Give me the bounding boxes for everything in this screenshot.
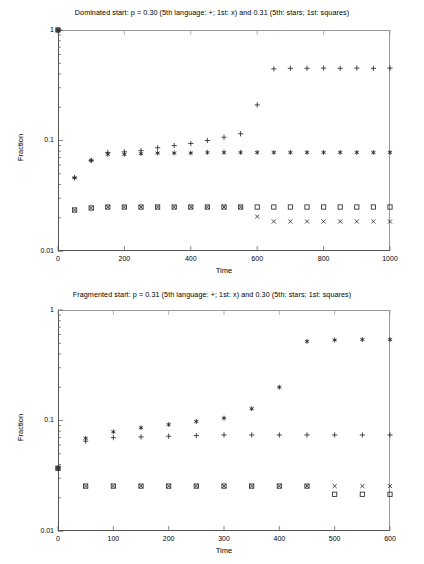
data-point (155, 151, 159, 156)
y-axis-ticks (58, 310, 63, 531)
data-point (332, 432, 337, 437)
series-2 (56, 337, 392, 471)
data-point (172, 143, 177, 148)
data-point (205, 138, 210, 143)
y-tick-label: 0.1 (16, 416, 54, 423)
data-point (194, 484, 198, 488)
data-point (194, 433, 199, 438)
data-point (305, 205, 309, 209)
data-point (167, 422, 171, 427)
data-point (89, 206, 93, 210)
x-tick-label: 200 (104, 255, 144, 262)
data-point (139, 425, 143, 430)
data-point (338, 66, 343, 71)
x-tick-label: 400 (259, 535, 299, 542)
chart-panel-fragmented-start: Fragmented start: p = 0.31 (5th language… (0, 282, 424, 564)
series-0 (55, 27, 392, 180)
x-tick-label: 600 (370, 535, 410, 542)
data-point (239, 205, 243, 209)
data-point (255, 205, 259, 209)
x-tick-label: 200 (149, 535, 189, 542)
data-point (360, 484, 364, 488)
x-axis-label-dominated-start: Time (184, 266, 264, 275)
data-point (277, 484, 281, 488)
x-axis-label-fragmented-start: Time (184, 546, 264, 555)
data-point (222, 416, 226, 421)
data-point (360, 337, 364, 342)
data-point (305, 339, 309, 344)
x-tick-label: 0 (38, 255, 78, 262)
data-point (360, 492, 364, 496)
series-1 (56, 466, 392, 488)
data-point (355, 150, 359, 155)
data-point (305, 219, 309, 223)
data-point (238, 150, 242, 155)
data-point (338, 219, 342, 223)
data-point (388, 492, 392, 496)
data-point (321, 150, 325, 155)
x-tick-label: 0 (38, 535, 78, 542)
data-point (205, 150, 209, 155)
data-point (321, 66, 326, 71)
data-point (166, 434, 171, 439)
data-point (272, 219, 276, 223)
data-point (388, 337, 392, 342)
y-tick-label: 0.1 (16, 136, 54, 143)
data-point (288, 219, 292, 223)
data-point (84, 484, 88, 488)
x-tick-label: 600 (237, 255, 277, 262)
data-point (388, 150, 392, 155)
data-point (73, 208, 77, 212)
data-point (272, 150, 276, 155)
data-point (371, 150, 375, 155)
data-point (139, 151, 143, 156)
data-point (188, 141, 193, 146)
data-point (122, 152, 126, 157)
data-point (255, 102, 260, 107)
series-3 (56, 466, 392, 496)
data-point (333, 492, 337, 496)
data-point (355, 205, 359, 209)
data-point (333, 338, 337, 343)
data-point (138, 434, 143, 439)
x-axis-ticks (58, 30, 390, 251)
x-tick-label: 300 (204, 535, 244, 542)
data-point (238, 131, 243, 136)
data-point (84, 436, 88, 441)
data-point (111, 484, 115, 488)
data-point (222, 150, 226, 155)
series-0 (55, 432, 392, 470)
data-point (338, 150, 342, 155)
data-point (167, 484, 171, 488)
data-point (155, 145, 160, 150)
data-point (288, 205, 292, 209)
data-point (333, 484, 337, 488)
data-point (122, 205, 126, 209)
data-point (255, 150, 259, 155)
data-point (194, 419, 198, 424)
data-point (387, 432, 392, 437)
data-point (277, 432, 282, 437)
data-point (272, 205, 276, 209)
y-tick-label: 1 (16, 26, 54, 33)
data-point (250, 484, 254, 488)
y-tick-label: 0.01 (16, 247, 54, 254)
data-point (360, 432, 365, 437)
figure-root: Dominated start: p = 0.30 (5th language:… (0, 0, 424, 564)
series-3 (56, 28, 392, 212)
data-point (387, 66, 392, 71)
data-point (305, 484, 309, 488)
data-point (139, 205, 143, 209)
data-point (321, 205, 325, 209)
y-axis-ticks (58, 30, 63, 251)
data-point (205, 205, 209, 209)
x-tick-label: 800 (304, 255, 344, 262)
data-point (322, 219, 326, 223)
data-point (338, 205, 342, 209)
x-tick-label: 500 (315, 535, 355, 542)
data-point (288, 150, 292, 155)
data-point (371, 205, 375, 209)
data-point (388, 484, 392, 488)
plot-svg-fragmented-start (0, 282, 424, 564)
data-point (111, 429, 115, 434)
